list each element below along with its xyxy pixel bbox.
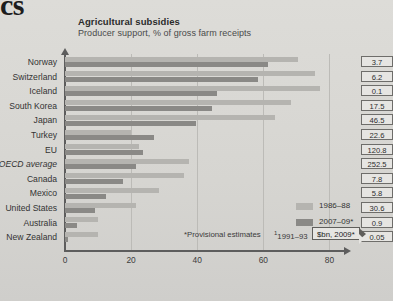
legend-swatch — [296, 219, 313, 226]
category-label: OECD average — [0, 159, 57, 169]
callout-arrow-icon — [359, 228, 366, 240]
footnote-provisional: *Provisional estimates — [184, 230, 261, 239]
category-label: Mexico — [0, 188, 57, 198]
x-tick-label: 20 — [119, 255, 143, 265]
category-label: United States — [0, 203, 57, 213]
gridline — [263, 54, 264, 250]
value-box: 0.05 — [361, 231, 393, 242]
bar — [65, 115, 275, 120]
category-label: Turkey — [0, 130, 57, 140]
bar — [65, 223, 77, 228]
value-box: 0.9 — [361, 217, 393, 228]
category-label: Japan — [0, 115, 57, 125]
value-box: 46.5 — [361, 114, 393, 125]
chart-figure: Agricultural subsidies Producer support,… — [56, 8, 393, 293]
clipped-heading-fragment: cs — [0, 0, 24, 20]
legend-swatch — [296, 203, 313, 210]
category-label: Australia — [0, 218, 57, 228]
bar — [65, 121, 196, 126]
bar — [65, 208, 95, 213]
footnote-dagger: 11991–93 — [274, 230, 308, 241]
chart-title: Agricultural subsidies — [78, 16, 180, 27]
value-column-callout: $bn, 2009* — [312, 227, 366, 240]
x-axis-line — [64, 250, 346, 252]
bar — [65, 173, 184, 178]
bar — [65, 130, 131, 135]
legend-label: 2007–09* — [319, 217, 353, 226]
value-box: 120.8 — [361, 144, 393, 155]
value-box: 5.8 — [361, 187, 393, 198]
bar — [65, 237, 68, 242]
plot-area: NorwaySwitzerlandIcelandSouth KoreaJapan… — [56, 54, 393, 264]
value-box: 6.2 — [361, 71, 393, 82]
value-box: 3.7 — [361, 56, 393, 67]
value-box: 17.5 — [361, 100, 393, 111]
bar — [65, 188, 159, 193]
value-box: 30.6 — [361, 202, 393, 213]
bar — [65, 144, 139, 149]
value-box: 0.1 — [361, 85, 393, 96]
chart-subtitle: Producer support, % of gross farm receip… — [78, 28, 251, 38]
bar — [65, 150, 143, 155]
value-box: 22.6 — [361, 129, 393, 140]
bar — [65, 91, 217, 96]
y-axis-arrow-icon — [61, 48, 69, 55]
page-background: cs Agricultural subsidies Producer suppo… — [0, 0, 393, 301]
value-column-callout-label: $bn, 2009* — [312, 227, 360, 240]
bar — [65, 217, 98, 222]
bar — [65, 164, 136, 169]
category-label: South Korea — [0, 101, 57, 111]
x-axis-arrow-icon — [344, 247, 351, 255]
x-tick-label: 0 — [53, 255, 77, 265]
bar — [65, 77, 258, 82]
value-box: 7.8 — [361, 173, 393, 184]
category-label: New Zealand — [0, 232, 57, 242]
bar — [65, 194, 106, 199]
bar — [65, 62, 268, 67]
category-label: Switzerland — [0, 72, 57, 82]
bar — [65, 232, 98, 237]
footnote-dagger-text: 1991–93 — [277, 232, 307, 241]
category-label: Canada — [0, 174, 57, 184]
x-tick-label: 60 — [251, 255, 275, 265]
bar — [65, 203, 136, 208]
bar — [65, 71, 315, 76]
bar — [65, 135, 154, 140]
bar — [65, 86, 320, 91]
x-tick-label: 40 — [185, 255, 209, 265]
bar — [65, 179, 123, 184]
category-label: Norway — [0, 57, 57, 67]
bar — [65, 57, 298, 62]
bar — [65, 106, 212, 111]
category-label: EU — [0, 145, 57, 155]
bar — [65, 159, 189, 164]
gridline — [197, 54, 198, 250]
legend-label: 1986–88 — [319, 201, 350, 210]
category-label: Iceland — [0, 86, 57, 96]
bar — [65, 100, 291, 105]
value-box: 252.5 — [361, 158, 393, 169]
x-tick-label: 80 — [317, 255, 341, 265]
